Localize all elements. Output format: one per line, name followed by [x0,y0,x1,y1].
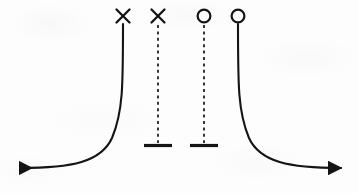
left-interior-asymptote [144,25,172,146]
left-branch-curve [20,24,123,168]
right-branch-curve [238,24,341,168]
open-circle-icon [198,10,211,23]
marker-cross-right [152,10,165,23]
marker-cross-left [117,10,130,23]
open-circle-icon [232,10,245,23]
marker-circle-right [232,10,245,23]
figure-container [0,0,358,193]
marker-circle-left [198,10,211,23]
right-branch-path [238,24,341,168]
right-interior-asymptote [190,25,218,146]
asymptote-diagram [0,0,358,193]
left-branch-path [20,24,123,168]
